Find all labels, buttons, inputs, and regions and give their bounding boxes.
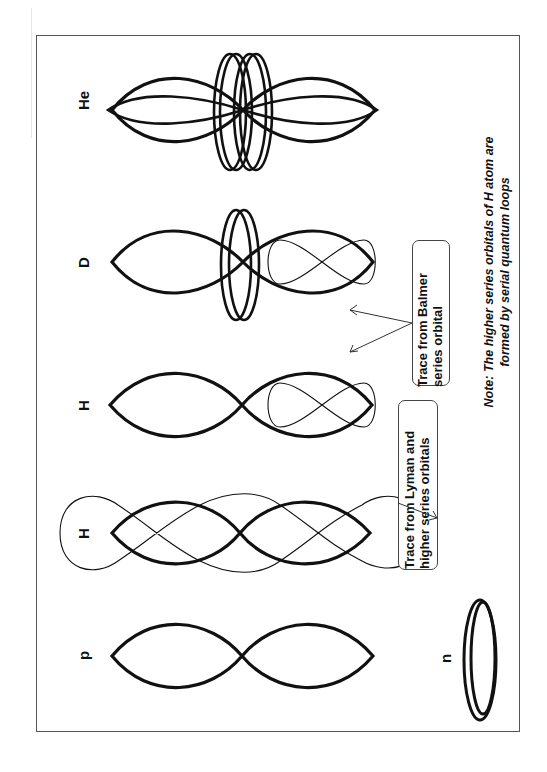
label-he: He [75, 86, 92, 116]
he-orbital-figure [108, 54, 377, 170]
callout-lyman-line1: Trace from Lyman and [402, 401, 417, 569]
h-lyman-orbital-figure [60, 494, 422, 573]
label-h-lyman: H [75, 519, 92, 549]
callout-balmer-line2: series orbital [430, 241, 445, 387]
label-n: n [437, 644, 454, 674]
callout-lyman-line2: higher series orbitals [417, 401, 432, 569]
note-line1: Note: The higher series orbitals of H at… [481, 107, 497, 437]
note-line2: formed by serial quantum loops [497, 107, 513, 437]
label-h-balmer: H [75, 391, 92, 421]
n-loop-figure [464, 600, 496, 720]
note: Note: The higher series orbitals of H at… [481, 107, 515, 437]
label-d: D [75, 248, 92, 278]
h-balmer-orbital-figure [110, 373, 375, 436]
callout-balmer-line1: Trace from Balmer [415, 241, 430, 387]
p-orbital-figure [112, 624, 373, 687]
d-orbital-figure [112, 210, 375, 320]
balmer-arrows [350, 305, 412, 352]
callout-balmer: Trace from Balmer series orbital [415, 241, 447, 387]
label-p: p [75, 641, 92, 671]
callout-lyman: Trace from Lyman and higher series orbit… [402, 401, 434, 569]
